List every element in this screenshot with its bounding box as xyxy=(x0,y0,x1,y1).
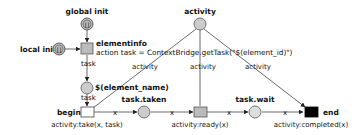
elementinfo-label: elementinfo xyxy=(96,39,147,48)
arc-label-x-1: x xyxy=(113,109,117,117)
transition-elementinfo[interactable]: elementinfo action task = ContextBridge.… xyxy=(81,39,293,57)
arc-label-x-4: x xyxy=(283,109,287,117)
arc-label-task-2: task xyxy=(81,94,97,102)
elementinfo-box xyxy=(81,43,93,54)
petri-net-diagram: task task activity activity activity x x… xyxy=(0,0,362,135)
ready-guard: activity:ready(x) xyxy=(171,121,228,129)
global-init-token: [] xyxy=(85,21,90,28)
arc-label-activity-1: activity xyxy=(132,63,158,71)
local-init-label: local init xyxy=(20,45,57,54)
arc-label-activity-2: activity xyxy=(190,63,216,71)
global-init-label: global init xyxy=(66,7,109,16)
end-box xyxy=(305,107,318,117)
begin-label: begin xyxy=(57,108,81,117)
task-wait-label: task.wait xyxy=(235,95,275,104)
activity-circle xyxy=(194,18,206,30)
place-activity[interactable]: activity xyxy=(184,7,216,30)
place-task-wait[interactable]: task.wait xyxy=(235,95,275,118)
local-init-token: [] xyxy=(57,46,62,53)
task-taken-circle xyxy=(138,106,150,118)
arc-label-activity-3: activity xyxy=(245,63,271,71)
arc-label-x-3: x xyxy=(227,109,231,117)
task-wait-circle xyxy=(249,106,261,118)
transition-ready[interactable]: activity:ready(x) xyxy=(171,107,228,129)
arc-label-x-2: x xyxy=(170,109,174,117)
begin-box xyxy=(81,107,94,117)
task-taken-label: task.taken xyxy=(122,95,167,104)
place-global-init[interactable]: global init [] xyxy=(66,7,109,30)
begin-guard: activity:take(x, task) xyxy=(51,121,123,129)
place-task-taken[interactable]: task.taken xyxy=(122,95,167,118)
elementinfo-action: action task = ContextBridge.getTask("$(e… xyxy=(96,48,293,57)
ready-box xyxy=(194,107,207,117)
place-local-init[interactable]: local init [] xyxy=(20,43,65,55)
end-label: end xyxy=(323,108,339,117)
element-name-circle xyxy=(81,82,93,94)
element-name-label: $(element_name) xyxy=(95,83,169,92)
activity-label: activity xyxy=(184,7,216,16)
arc-label-task-1: task xyxy=(81,60,97,68)
end-guard: activity:completed(x) xyxy=(274,121,349,129)
place-element-name[interactable]: $(element_name) xyxy=(81,82,169,94)
